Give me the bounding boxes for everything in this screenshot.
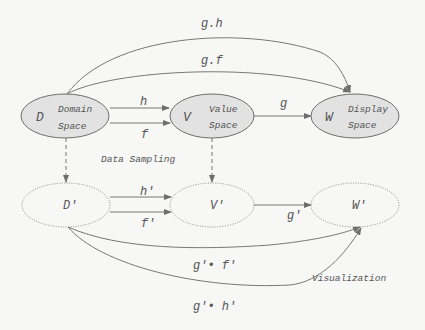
edge-label-gp-hp: g'• h' (193, 300, 236, 314)
edge-label-f-prime: f' (141, 217, 155, 231)
annotation-data-sampling: Data Sampling (101, 154, 175, 165)
edge-g-f (67, 72, 350, 94)
label-d: D (36, 110, 44, 125)
label-w: W (325, 110, 334, 125)
edge-label-g-h: g.h (201, 17, 223, 31)
label-display: Display (348, 104, 388, 115)
label-domain: Domain (58, 104, 93, 115)
edge-label-g-prime: g' (287, 209, 301, 223)
label-v: V (183, 110, 192, 125)
edge-label-h: h (140, 95, 147, 109)
edge-label-gp-fp: g'• f' (193, 259, 236, 273)
sampling-visualization-diagram: D Domain Space V Value Space W Display S… (0, 0, 425, 330)
edge-label-g: g (280, 97, 287, 111)
edge-label-h-prime: h' (140, 185, 154, 199)
edge-label-g-f: g.f (201, 54, 223, 68)
edge-gp-fp (68, 227, 360, 248)
label-domain-space: Space (58, 121, 87, 132)
label-d-prime: D' (63, 199, 77, 213)
annotation-visualization: Visualization (312, 273, 386, 284)
label-display-space: Space (348, 120, 377, 131)
label-value: Value (209, 104, 238, 115)
label-w-prime: W' (352, 199, 366, 213)
label-value-space: Space (209, 120, 238, 131)
label-v-prime: V' (210, 199, 224, 213)
edge-label-f: f (141, 128, 149, 142)
